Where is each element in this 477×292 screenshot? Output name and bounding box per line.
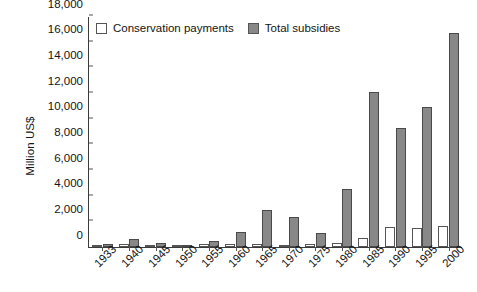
bar-group [302, 17, 329, 247]
gray-square-icon [248, 23, 259, 34]
legend-item-conservation-payments: Conservation payments [96, 22, 234, 34]
x-axis-tick-cell: 1990 [382, 250, 409, 292]
x-axis-tick-cell: 1933 [88, 250, 115, 292]
bar-conservation-payments [412, 228, 422, 247]
y-axis-tick-mark [89, 15, 93, 16]
bar-conservation-payments [332, 243, 342, 247]
bar-conservation-payments [119, 244, 129, 247]
x-axis-tick-cell: 1960 [222, 250, 249, 292]
x-axis-tick-cell: 1965 [248, 250, 275, 292]
bar-conservation-payments [305, 244, 315, 247]
y-axis-tick-label: 4,000 [54, 178, 83, 190]
bar-total-subsidies [396, 128, 406, 247]
bar-total-subsidies [449, 33, 459, 247]
x-axis-tick-cell: 1985 [355, 250, 382, 292]
bar-conservation-payments [252, 244, 262, 247]
x-axis-tick-cell: 2000 [435, 250, 462, 292]
bar-conservation-payments [199, 244, 209, 247]
bar-group [222, 17, 249, 247]
bar-conservation-payments [225, 244, 235, 247]
bar-group [409, 17, 436, 247]
bar-chart-figure: Million US$ 02,0004,0006,0008,00010,0001… [0, 0, 477, 292]
legend-label: Total subsidies [265, 22, 340, 34]
x-axis-tick-cell: 1940 [115, 250, 142, 292]
y-axis-tick-label: 18,000 [48, 0, 83, 10]
y-axis-tick-label: 6,000 [54, 153, 83, 165]
legend-label: Conservation payments [113, 22, 234, 34]
bar-conservation-payments [92, 245, 102, 247]
white-square-icon [96, 23, 107, 34]
bar-conservation-payments [385, 227, 395, 247]
bar-total-subsidies [262, 210, 272, 247]
bar-total-subsidies [369, 92, 379, 247]
bar-group [275, 17, 302, 247]
bar-total-subsidies [342, 189, 352, 247]
y-axis-tick-label: 12,000 [48, 76, 83, 88]
bar-group [196, 17, 223, 247]
plot-area: 02,0004,0006,0008,00010,00012,00014,0001… [88, 17, 462, 248]
bar-conservation-payments [145, 245, 155, 247]
bar-group [435, 17, 462, 247]
bar-conservation-payments [279, 245, 289, 247]
y-axis-tick-label: 8,000 [54, 127, 83, 139]
y-axis-tick-label: 16,000 [48, 24, 83, 36]
x-axis-tick-cell: 1980 [328, 250, 355, 292]
y-axis-tick-label: 0 [77, 230, 83, 242]
x-axis-tick-cell: 1945 [141, 250, 168, 292]
bar-total-subsidies [422, 107, 432, 247]
x-axis-tick-cell: 1970 [275, 250, 302, 292]
x-axis-tick-cell: 1995 [409, 250, 436, 292]
x-axis-tick-cell: 1975 [302, 250, 329, 292]
bar-group [329, 17, 356, 247]
bar-group [382, 17, 409, 247]
y-axis-title: Million US$ [20, 0, 40, 292]
bar-conservation-payments [172, 245, 182, 247]
bar-group [142, 17, 169, 247]
x-axis-tick-cell: 1950 [168, 250, 195, 292]
bar-group [249, 17, 276, 247]
x-axis-tick-cell: 1955 [195, 250, 222, 292]
y-axis-tick-label: 14,000 [48, 50, 83, 62]
bar-group [355, 17, 382, 247]
bar-group [116, 17, 143, 247]
bar-conservation-payments [358, 238, 368, 247]
x-axis-tick-group: 1933194019451950195519601965197019751980… [88, 250, 462, 292]
bar-group [89, 17, 116, 247]
y-axis-tick-label: 2,000 [54, 204, 83, 216]
bar-conservation-payments [438, 226, 448, 247]
chart-legend: Conservation payments Total subsidies [90, 17, 346, 39]
y-axis-tick-label: 10,000 [48, 101, 83, 113]
legend-item-total-subsidies: Total subsidies [248, 22, 340, 34]
bar-group-container [89, 17, 462, 247]
bar-group [169, 17, 196, 247]
